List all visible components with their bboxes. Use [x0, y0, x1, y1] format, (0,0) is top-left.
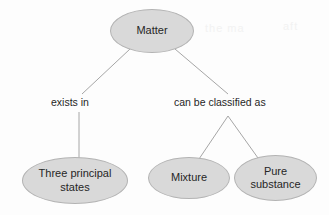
node-line-2: substance: [244, 178, 306, 192]
edge-classified-as-to-mixture: [199, 116, 228, 159]
node-mixture[interactable]: Mixture: [148, 157, 230, 199]
node-pure-substance[interactable]: Puresubstance: [234, 155, 317, 201]
node-three-principal-states-label: Three principalstates: [27, 167, 124, 194]
diagram-canvas: the ma aft Matter Three principalstates …: [0, 0, 329, 215]
edge-label-classified-as: can be classified as: [174, 96, 266, 108]
node-line-1: Three principal: [33, 167, 118, 181]
node-line-2: states: [33, 181, 118, 195]
edge-label-exists-in: exists in: [51, 96, 89, 108]
edge-matter-to-exists-in: [82, 49, 130, 94]
node-matter[interactable]: Matter: [110, 9, 194, 53]
edge-matter-to-classified-as: [175, 49, 228, 94]
node-matter-label: Matter: [130, 24, 173, 38]
node-line-1: Pure: [244, 165, 306, 179]
edge-classified-as-to-pure: [228, 116, 258, 158]
node-mixture-label: Mixture: [165, 171, 213, 185]
node-three-principal-states[interactable]: Three principalstates: [22, 157, 128, 204]
node-pure-substance-label: Puresubstance: [238, 165, 312, 192]
